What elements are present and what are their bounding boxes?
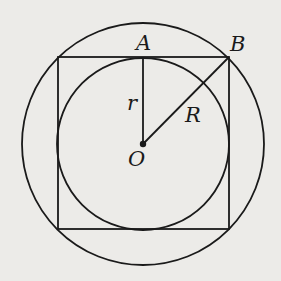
label-A: A xyxy=(134,31,151,55)
label-r: r xyxy=(127,91,139,115)
label-R: R xyxy=(184,103,201,127)
label-B: B xyxy=(229,32,245,56)
geometry-diagram: A B r R O xyxy=(0,0,281,281)
label-O: O xyxy=(128,147,145,171)
